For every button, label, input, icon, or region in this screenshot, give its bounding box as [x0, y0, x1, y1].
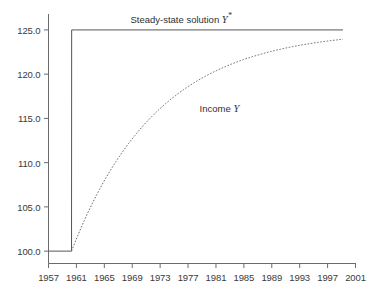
plot-canvas [0, 0, 384, 294]
x-tick-label: 1961 [66, 272, 87, 283]
x-tick-label: 1969 [122, 272, 143, 283]
chart-figure: 100.0105.0110.0115.0120.0125.0 195719611… [0, 0, 384, 294]
x-tick-label: 1973 [150, 272, 171, 283]
annotation-text: Income [200, 102, 234, 113]
y-axis-ticks [44, 30, 49, 251]
y-tick-label: 120.0 [0, 69, 41, 80]
x-tick-label: 1965 [94, 272, 115, 283]
annotation-text: Steady-state solution [130, 13, 221, 24]
y-tick-label: 100.0 [0, 246, 41, 257]
y-tick-label: 110.0 [0, 157, 41, 168]
x-tick-label: 1957 [38, 272, 59, 283]
axes-group [44, 14, 356, 268]
x-axis-ticks [49, 264, 356, 269]
x-tick-label: 1985 [233, 272, 254, 283]
x-tick-label: 1977 [178, 272, 199, 283]
x-tick-label: 1997 [317, 272, 338, 283]
y-tick-label: 115.0 [0, 113, 41, 124]
income-label: Income Y [200, 102, 240, 113]
series-line-income [72, 39, 343, 251]
steady-state-label: Steady-state solution Y* [130, 11, 231, 24]
y-tick-label: 125.0 [0, 24, 41, 35]
annotation-symbol: Y [233, 102, 239, 113]
y-tick-label: 105.0 [0, 201, 41, 212]
series-group [49, 30, 343, 251]
x-tick-label: 1993 [289, 272, 310, 283]
x-tick-label: 1989 [261, 272, 282, 283]
x-tick-label: 2001 [345, 272, 366, 283]
series-line-steady-state [49, 30, 343, 251]
x-tick-label: 1981 [206, 272, 227, 283]
annotation-superscript: * [228, 11, 232, 20]
